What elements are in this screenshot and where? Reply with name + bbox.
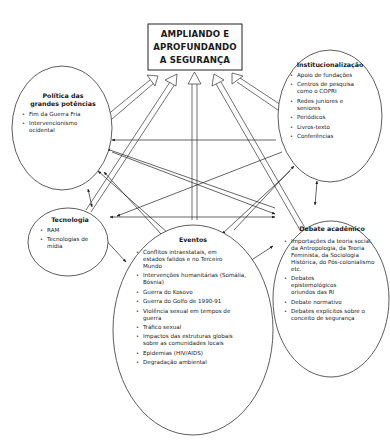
node-debate: Debate acadêmico Importações da teoria s… <box>284 225 380 325</box>
title-line-2: APROFUNDANDO <box>153 41 237 54</box>
node-politica: Política das grandes potências Fim da Gu… <box>22 92 104 137</box>
list-item: Debates explícitos sobre o conceito de s… <box>284 308 365 322</box>
node-debate-title: Debate acadêmico <box>284 225 380 233</box>
node-tecnologia-list: RAM Tecnologias de mídia <box>40 227 102 250</box>
list-item: Importações da teoria social, da Antropo… <box>284 238 379 273</box>
list-item: Guerra do Golfo de 1990-91 <box>136 298 249 305</box>
list-item: Apoio de fundações <box>290 72 373 79</box>
list-item: Debate normativo <box>284 299 380 306</box>
node-eventos-list: Conflitos intraestatais, em estados fali… <box>136 249 250 366</box>
list-item: Debates epistemológicos oriundos das RI <box>284 275 355 296</box>
list-item: Conflitos intraestatais, em estados fali… <box>136 249 231 270</box>
title-line-1: AMPLIANDO E <box>161 28 229 41</box>
list-item: Guerra do Kosovo <box>136 289 250 296</box>
list-item: Impactos das estruturas globais sobre as… <box>136 333 239 347</box>
node-politica-title-2: grandes potências <box>22 100 104 108</box>
list-item: Violência sexual em tempos de guerra <box>136 308 243 322</box>
list-item: Intervenções humanitárias (Somália, Bósn… <box>136 272 247 286</box>
node-politica-list: Fim da Guerra Fria Intervencionismo ocid… <box>22 111 104 134</box>
list-item: Centros de pesquisa como o COPRI <box>290 81 363 95</box>
node-institucionalizacao: Institucionalização Apoio de fundações C… <box>287 61 373 142</box>
list-item: Tecnologias de mídia <box>40 236 91 250</box>
list-item: Epidemias (HIV/AIDS) <box>136 350 250 357</box>
hollow-arrow-eventos-icon <box>188 72 201 220</box>
list-item: RAM <box>40 227 102 234</box>
node-politica-title-1: Política das <box>22 92 104 100</box>
hollow-arrows-to-title <box>86 72 305 230</box>
list-item: Tráfico sexual <box>136 324 250 331</box>
list-item: Periódicos <box>290 114 373 121</box>
list-item: Intervencionismo ocidental <box>22 120 87 134</box>
list-item: Conferências <box>290 133 373 140</box>
node-institucionalizacao-title: Institucionalização <box>287 61 373 69</box>
list-item: Fim da Guerra Fria <box>22 111 104 118</box>
node-eventos-title: Eventos <box>136 236 250 244</box>
node-debate-list: Importações da teoria social, da Antropo… <box>284 238 380 322</box>
list-item: Redes juniores e seniores <box>290 98 359 112</box>
node-eventos: Eventos Conflitos intraestatais, em esta… <box>146 236 250 369</box>
hollow-arrow-institucionalizacao-icon <box>232 73 281 110</box>
title-line-3: A SEGURANÇA <box>160 54 230 67</box>
list-item: Livros-texto <box>290 124 373 131</box>
title-box: AMPLIANDO E APROFUNDANDO A SEGURANÇA <box>148 24 242 70</box>
node-tecnologia-title: Tecnologia <box>38 216 102 224</box>
node-tecnologia: Tecnologia RAM Tecnologias de mídia <box>38 216 102 253</box>
node-institucionalizacao-list: Apoio de fundações Centros de pesquisa c… <box>290 72 373 140</box>
list-item: Degradação ambiental <box>136 359 250 366</box>
